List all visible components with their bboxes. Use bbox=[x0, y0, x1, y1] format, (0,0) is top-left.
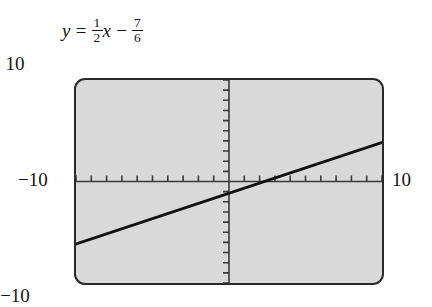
constant-fraction: 7 6 bbox=[132, 16, 143, 45]
constant-denominator: 6 bbox=[132, 30, 143, 45]
coefficient-numerator: 1 bbox=[92, 16, 103, 30]
constant-numerator: 7 bbox=[132, 16, 143, 30]
equation-minus-sign: − bbox=[116, 20, 127, 42]
x-axis-max-label: 10 bbox=[392, 169, 411, 191]
coefficient-denominator: 2 bbox=[92, 30, 103, 45]
equation-equals-sign: = bbox=[76, 20, 87, 42]
graph-plot bbox=[76, 80, 382, 283]
x-axis-min-label: −10 bbox=[18, 169, 48, 191]
graphing-calculator-screen bbox=[74, 78, 384, 285]
equation-expression: y = 1 2 x − 7 6 bbox=[62, 17, 143, 46]
equation-variable: x bbox=[103, 20, 112, 42]
y-axis-min-label: −10 bbox=[0, 285, 231, 307]
coefficient-fraction: 1 2 bbox=[92, 16, 103, 45]
equation-lhs: y bbox=[62, 20, 71, 42]
y-axis-max-label: 10 bbox=[0, 53, 231, 75]
